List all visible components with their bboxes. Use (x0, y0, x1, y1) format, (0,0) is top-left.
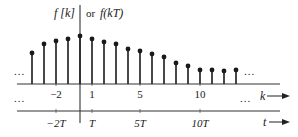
stem-dot (186, 64, 191, 69)
stem-dot (66, 37, 71, 42)
stem-dot (126, 47, 131, 52)
stem-dot (234, 68, 239, 73)
tick-label: 10T (191, 117, 209, 129)
stem-dot (90, 37, 95, 42)
ellipsis-lower-left: ... (14, 92, 25, 104)
ellipsis-lower-right: ... (240, 92, 251, 104)
tick-label: 5 (137, 88, 143, 100)
title-fkt: f(kT) (100, 6, 123, 20)
title-fk: f [k] (54, 6, 75, 20)
tick-label: 5T (134, 117, 147, 129)
ellipsis-upper-right: ... (244, 65, 255, 77)
stems (30, 34, 239, 84)
stem-dot (198, 68, 203, 73)
stem-dot (222, 69, 227, 74)
stem-dot (174, 61, 179, 66)
t-axis-ticks: −2TT5T10T (46, 109, 209, 129)
stem-dot (30, 51, 35, 56)
t-axis-label: t (263, 115, 267, 129)
k-axis-arrow-icon (267, 93, 290, 99)
stem-dot (54, 39, 59, 44)
discrete-signal-diagram: f [k] or f(kT) −21510 −2TT5T10T ... ... … (0, 0, 298, 137)
stem-dot (102, 40, 107, 45)
stem-dot (210, 68, 215, 73)
stem-dot (42, 42, 47, 47)
tick-label: 1 (89, 88, 95, 100)
stem-dot (114, 42, 119, 47)
tick-label: −2 (50, 88, 62, 100)
stem-plot: f [k] or f(kT) −21510 −2TT5T10T ... ... … (0, 0, 298, 137)
stem-dot (138, 49, 143, 54)
tick-label: −2T (46, 117, 66, 129)
ellipsis-upper-left: ... (14, 65, 25, 77)
t-axis-arrow-icon (269, 119, 290, 125)
stem-dot (78, 34, 83, 39)
stem-dot (162, 55, 167, 60)
k-axis-label: k (260, 89, 266, 103)
tick-label: 10 (195, 88, 207, 100)
title-or: or (86, 7, 96, 19)
tick-label: T (89, 117, 96, 129)
stem-dot (150, 52, 155, 57)
k-axis-ticks: −21510 (50, 82, 206, 100)
